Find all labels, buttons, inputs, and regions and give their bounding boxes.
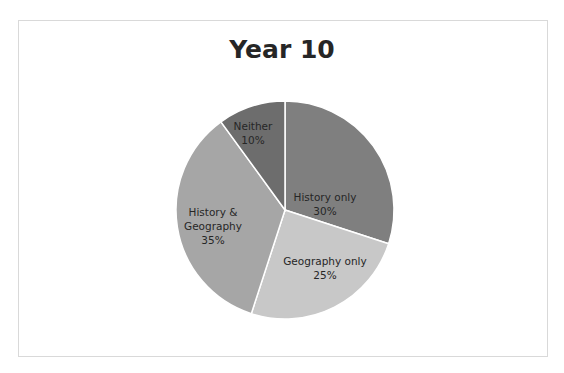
svg-text:10%: 10% xyxy=(241,134,264,146)
svg-text:Geography only: Geography only xyxy=(283,255,367,267)
svg-text:Geography: Geography xyxy=(184,220,242,232)
svg-text:Neither: Neither xyxy=(234,120,273,132)
svg-text:35%: 35% xyxy=(201,234,224,246)
svg-text:25%: 25% xyxy=(313,269,336,281)
svg-text:30%: 30% xyxy=(313,205,336,217)
svg-text:History only: History only xyxy=(294,191,357,203)
pie-chart: History only 30% Geography only 25% Hist… xyxy=(0,0,564,373)
svg-text:History &: History & xyxy=(189,206,238,218)
